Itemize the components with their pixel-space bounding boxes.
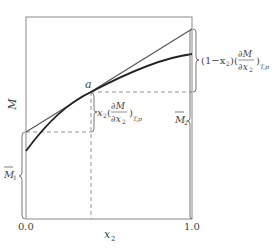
brace-right-upper	[193, 29, 199, 92]
svg-text:∂M: ∂M	[111, 101, 126, 111]
x-axis-label: M x 2	[104, 228, 115, 243]
m1-bar-label: M 1	[3, 167, 17, 181]
svg-text:∂x: ∂x	[238, 62, 248, 72]
plot-frame	[26, 17, 192, 219]
svg-text:2: 2	[249, 66, 253, 73]
m2-bar-label: M 2	[174, 112, 188, 126]
svg-text:T,p: T,p	[260, 63, 269, 71]
svg-text:∂M: ∂M	[238, 49, 253, 59]
point-a-label: a	[85, 78, 92, 91]
m-curve	[26, 54, 192, 151]
y-axis-label: M	[6, 98, 19, 111]
svg-text:∂x: ∂x	[111, 114, 121, 124]
right-annotation: (1−x 2 ) ( ∂M ∂x 2 ) T,p	[201, 49, 269, 73]
svg-text:2: 2	[111, 235, 115, 243]
x-tick-1: 1.0	[184, 221, 200, 232]
svg-text:T,p: T,p	[133, 115, 142, 123]
svg-text:2: 2	[122, 118, 126, 125]
svg-text:1: 1	[13, 174, 17, 181]
svg-text:(1−x: (1−x	[201, 55, 226, 66]
x-tick-0: 0.0	[18, 221, 34, 232]
svg-text:2: 2	[184, 119, 188, 126]
mid-annotation: x 2 ( ∂M ∂x 2 ) T,p	[97, 101, 142, 125]
tangent-intercept-diagram: a M M 1 x 2 ( ∂M ∂x 2 ) T,p M 2 (1−x 2 )…	[0, 0, 274, 248]
brace-m1	[19, 132, 25, 219]
svg-text:x: x	[104, 228, 111, 241]
